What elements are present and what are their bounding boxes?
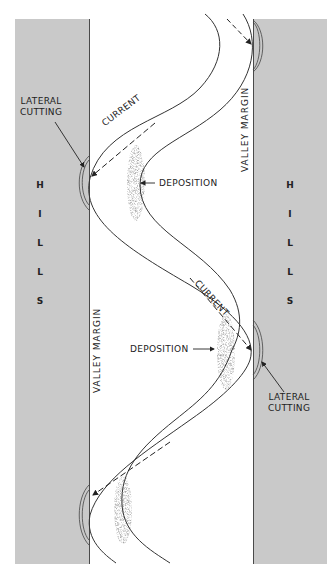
lateral-cutting-arcs-left-mid <box>79 156 89 210</box>
label-line: LATERAL <box>20 96 62 107</box>
current-arrow-left-bottom <box>93 442 170 495</box>
label-line: CUTTING <box>20 107 62 118</box>
valley-margin-label-right: VALLEY MARGIN <box>240 87 250 172</box>
lateral-cutting-label-top: LATERAL CUTTING <box>20 96 62 118</box>
river-drawing <box>0 0 334 573</box>
label-line: CUTTING <box>268 403 310 414</box>
current-arrow-left-mid <box>92 123 155 176</box>
lateral-cutting-arcs-right-mid <box>253 320 263 380</box>
deposition-label-top: DEPOSITION <box>159 178 217 189</box>
lateral-cutting-arcs-left-bottom <box>79 485 89 545</box>
river-bank-inner <box>122 14 253 563</box>
lateral-cutting-pointer-top <box>55 122 84 167</box>
meander-diagram: H I L L S H I L L S <box>0 0 334 573</box>
lateral-cutting-label-bottom: LATERAL CUTTING <box>268 392 310 414</box>
lateral-cutting-pointer-bottom <box>262 362 284 392</box>
valley-margin-label-left: VALLEY MARGIN <box>92 308 102 393</box>
lateral-cutting-arcs-top-right <box>253 20 263 72</box>
deposition-label-bottom: DEPOSITION <box>130 344 188 355</box>
label-line: LATERAL <box>268 392 310 403</box>
